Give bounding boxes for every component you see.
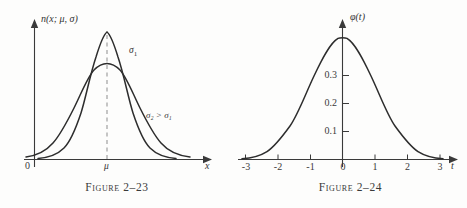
annotation-sigma1: σ1 bbox=[129, 45, 137, 58]
mean-tick-label: μ bbox=[104, 161, 109, 171]
xtick-label-2: 2 bbox=[398, 161, 418, 172]
ytick-label-0-2: 0.2 bbox=[313, 97, 337, 108]
origin-label-left: 0 bbox=[25, 160, 30, 171]
xtick-label-0: 0 bbox=[333, 161, 353, 172]
xtick-label-minus-1: -1 bbox=[301, 161, 321, 172]
figure-2-24-plot bbox=[234, 0, 467, 180]
x-axis-left bbox=[24, 156, 212, 163]
y-axis-label-left: n(x; μ, σ) bbox=[41, 13, 78, 24]
y-axis-right bbox=[339, 19, 346, 167]
y-axis-label-right: φ(t) bbox=[350, 11, 365, 22]
x-axis-label-right: t bbox=[451, 160, 454, 171]
ytick-label-0-3: 0.3 bbox=[313, 69, 337, 80]
annotation-sigma1-sub: 1 bbox=[134, 50, 138, 58]
xtick-label-1: 1 bbox=[365, 161, 385, 172]
caption-figure-2-23: Figure 2–23 bbox=[0, 181, 234, 193]
figure-2-23-plot bbox=[0, 0, 234, 180]
y-axis-left bbox=[31, 19, 38, 167]
figure-2-24: φ(t) t -3 -2 -1 0 1 2 3 0.3 0.2 0.1 Figu… bbox=[234, 0, 467, 208]
y-tick-marks-right bbox=[343, 76, 350, 132]
xtick-label-3: 3 bbox=[430, 161, 450, 172]
annotation-sigma2-gt-sigma1: σ₂ > σ₁ bbox=[146, 110, 172, 120]
figure-2-23: n(x; μ, σ) x 0 μ σ1 σ₂ > σ₁ Figure 2–23 bbox=[0, 0, 234, 208]
figure-page: n(x; μ, σ) x 0 μ σ1 σ₂ > σ₁ Figure 2–23 bbox=[0, 0, 467, 208]
caption-figure-2-24: Figure 2–24 bbox=[234, 181, 467, 193]
x-axis-label-left: x bbox=[205, 160, 209, 171]
xtick-label-minus-2: -2 bbox=[268, 161, 288, 172]
ytick-label-0-1: 0.1 bbox=[313, 125, 337, 136]
xtick-label-minus-3: -3 bbox=[236, 161, 256, 172]
